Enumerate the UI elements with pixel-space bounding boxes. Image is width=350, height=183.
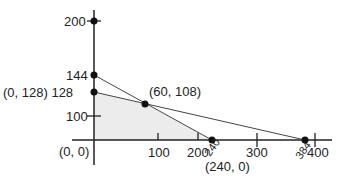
x-label-100: 100 <box>148 145 170 160</box>
y-label-100: 100 <box>66 109 88 124</box>
vertex-label-60-108: (60, 108) <box>149 84 201 99</box>
point-0-200 <box>91 18 98 25</box>
x-label-300: 300 <box>246 145 268 160</box>
y-label-128: (0, 128) 128 <box>3 85 73 100</box>
y-label-144: 144 <box>66 68 88 83</box>
feasible-region <box>94 92 212 140</box>
origin-label: (0, 0) <box>59 144 89 159</box>
point-0-128 <box>91 89 98 96</box>
y-label-200: 200 <box>64 14 86 29</box>
vertex-label-240-0: (240, 0) <box>205 159 250 174</box>
point-60-108 <box>142 101 149 108</box>
point-0-144 <box>91 72 98 79</box>
linear-programming-chart: 200 144 (0, 128) 128 100 (0, 0) 100 200 … <box>0 0 350 183</box>
